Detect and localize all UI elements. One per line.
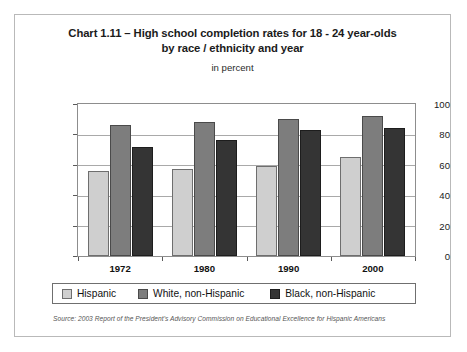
x-axis-label-2000: 2000 [343,263,403,274]
title-block: Chart 1.11 – High school completion rate… [15,15,450,74]
x-axis-tick-mark [247,257,248,261]
bar-1980-black-non-hispanic [216,140,237,256]
x-axis-tick-mark [331,257,332,261]
y-axis-tick-label: 80 [426,129,450,140]
legend-item-white-non-hispanic[interactable]: White, non-Hispanic [138,288,244,299]
bar-1990-black-non-hispanic [300,130,321,256]
bar-group [340,104,405,256]
legend-item-black-non-hispanic[interactable]: Black, non-Hispanic [270,288,375,299]
x-axis-label-1980: 1980 [174,263,234,274]
bar-group [172,104,237,256]
legend-label: Black, non-Hispanic [285,288,375,299]
chart-title-line-1: Chart 1.11 – High school completion rate… [68,27,396,39]
bar-2000-hispanic [340,157,361,256]
x-axis-tick-mark [162,257,163,261]
bar-2000-white-non-hispanic [362,116,383,256]
y-axis-tick-label: 40 [426,190,450,201]
bar-1972-hispanic [88,171,109,256]
plot-area: 0204060801001972198019902000 [15,89,450,289]
y-axis-tick-mark [73,195,77,196]
y-axis-tick-label: 0 [426,251,450,262]
chart-title-line-2: by race / ethnicity and year [161,42,303,54]
x-axis-tick-mark [415,257,416,261]
legend-label: White, non-Hispanic [153,288,244,299]
x-axis-label-1990: 1990 [259,263,319,274]
bar-2000-black-non-hispanic [384,128,405,256]
chart-subtitle: in percent [15,62,450,74]
legend-swatch-icon [138,289,148,299]
legend-item-hispanic[interactable]: Hispanic [62,288,116,299]
y-axis-tick-mark [73,165,77,166]
bar-1990-white-non-hispanic [278,119,299,256]
bar-group [256,104,321,256]
chart-page-frame: Chart 1.11 – High school completion rate… [14,14,451,337]
source-note: Source: 2003 Report of the President's A… [53,315,423,322]
chart-legend: HispanicWhite, non-HispanicBlack, non-Hi… [52,283,416,304]
legend-label: Hispanic [77,288,116,299]
chart-title: Chart 1.11 – High school completion rate… [15,26,450,55]
y-axis-tick-label: 60 [426,159,450,170]
y-axis-tick-label: 20 [426,220,450,231]
y-axis-tick-mark [73,226,77,227]
x-axis-tick-mark [78,257,79,261]
bars-layer [78,104,415,256]
y-axis-tick-mark [73,104,77,105]
y-axis-tick-mark [73,134,77,135]
bar-1990-hispanic [256,166,277,256]
y-axis-tick-label: 100 [426,99,450,110]
x-axis-label-1972: 1972 [90,263,150,274]
legend-swatch-icon [270,289,280,299]
y-axis-tick-mark [73,256,77,257]
y-axis [45,103,77,257]
bar-1972-black-non-hispanic [132,147,153,256]
bar-group [88,104,153,256]
bar-1980-white-non-hispanic [194,122,215,256]
bar-1980-hispanic [172,169,193,256]
legend-swatch-icon [62,289,72,299]
bar-1972-white-non-hispanic [110,125,131,256]
